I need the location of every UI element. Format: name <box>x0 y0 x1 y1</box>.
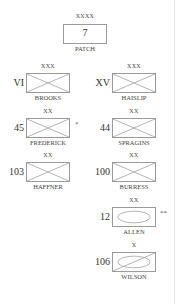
unit-box-haislip <box>112 73 156 93</box>
unit-top-label: XX <box>26 108 70 114</box>
unit-box-allen <box>112 207 156 227</box>
unit-name: HAISLIP <box>104 94 164 101</box>
unit-box-brooks <box>26 73 70 93</box>
unit-box-haffner <box>26 162 70 182</box>
asterisk-mark: * <box>75 120 79 128</box>
ellipse-slash-icon <box>113 253 155 271</box>
patch-number: 7 <box>64 27 106 38</box>
unit-number: XV <box>86 77 110 88</box>
ellipse-icon <box>113 208 155 226</box>
unit-name: WILSON <box>104 273 164 280</box>
unit-top-label: XX <box>112 197 156 203</box>
cross-icon <box>27 163 69 181</box>
unit-name: BURRESS <box>104 183 164 190</box>
unit-number: 45 <box>0 122 24 133</box>
unit-name: SPRAGINS <box>104 139 164 146</box>
unit-top-label: XX <box>112 152 156 158</box>
unit-top-label: XX <box>112 108 156 114</box>
unit-box-wilson <box>112 252 156 272</box>
cross-icon <box>113 74 155 92</box>
double-asterisk-mark: ** <box>160 209 167 217</box>
cross-icon <box>113 163 155 181</box>
unit-number: 100 <box>86 166 110 177</box>
patch-label: PATCH <box>55 45 115 52</box>
unit-number: 106 <box>86 256 110 267</box>
unit-box-burress <box>112 162 156 182</box>
unit-number: 12 <box>86 211 110 222</box>
unit-box-frederick <box>26 118 70 138</box>
cross-icon <box>113 119 155 137</box>
unit-number: VI <box>0 77 24 88</box>
patch-top-label: XXXX <box>63 13 107 19</box>
unit-name: BROOKS <box>18 94 78 101</box>
unit-top-label: XX <box>26 152 70 158</box>
cross-icon <box>27 74 69 92</box>
unit-top-label: X <box>112 242 156 248</box>
unit-name: HAFFNER <box>18 183 78 190</box>
unit-number: 103 <box>0 166 24 177</box>
unit-number: 44 <box>86 122 110 133</box>
cross-icon <box>27 119 69 137</box>
unit-box-spragins <box>112 118 156 138</box>
patch-box: 7 <box>63 24 107 44</box>
unit-top-label: XXX <box>112 63 156 69</box>
unit-top-label: XXX <box>26 63 70 69</box>
unit-name: FREDERICK <box>18 139 78 146</box>
page-edge-line <box>174 0 175 304</box>
unit-name: ALLEN <box>104 228 164 235</box>
